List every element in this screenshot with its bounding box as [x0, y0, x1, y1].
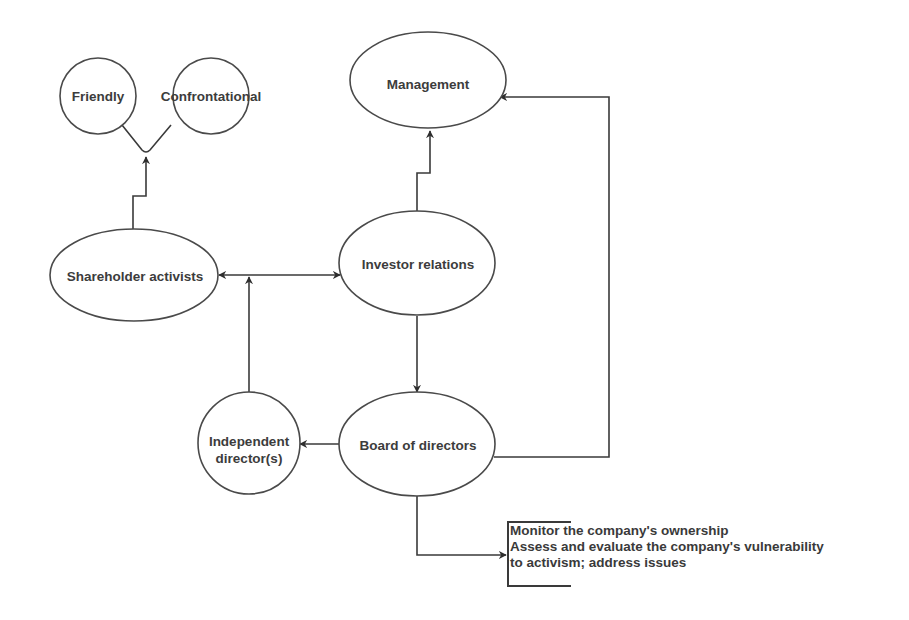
edge-shareholder-to-stance [133, 157, 146, 229]
connectors [122, 97, 609, 586]
note-line-2: Assess and evaluate the company's vulner… [510, 539, 824, 555]
node-shareholder-activists-label: Shareholder activists [67, 268, 204, 285]
node-investor-relations-label: Investor relations [362, 256, 475, 273]
node-friendly-label: Friendly [72, 88, 125, 105]
note-line-1: Monitor the company's ownership [510, 523, 824, 539]
friendly-confrontational-join [122, 125, 171, 152]
node-confrontational-label: Confrontational [161, 88, 262, 105]
node-board-of-directors-label: Board of directors [359, 437, 476, 454]
edge-board-to-management [494, 97, 609, 457]
edge-board-to-note [417, 496, 506, 555]
independent-directors-line-2: director(s) [209, 450, 289, 467]
edge-investor-to-management [417, 131, 430, 212]
note-line-3: to activism; address issues [510, 555, 824, 571]
independent-directors-line-1: Independent [209, 433, 289, 450]
node-management-label: Management [387, 76, 470, 93]
board-responsibilities-note: Monitor the company's ownership Assess a… [510, 523, 824, 571]
node-independent-directors-label: Independent director(s) [209, 433, 289, 467]
